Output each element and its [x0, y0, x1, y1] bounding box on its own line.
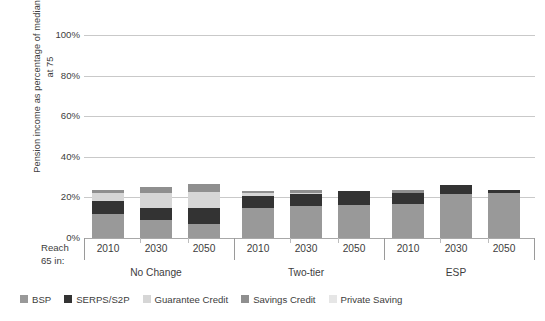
bar-two-tier-2030[interactable] [290, 190, 322, 238]
x-axis-caption-line1: Reach [41, 242, 87, 255]
group-separator [384, 238, 385, 260]
x-tick-mark [290, 238, 291, 243]
bar-segment-serps-s2p [440, 185, 472, 194]
x-tick-label: 2030 [430, 243, 482, 254]
x-axis: 201020302050201020302050201020302050No C… [84, 238, 535, 284]
bar-no-change-2050[interactable] [188, 184, 220, 238]
x-tick-label: 2010 [232, 243, 284, 254]
legend-item[interactable]: Private Saving [329, 294, 403, 305]
bar-two-tier-2010[interactable] [242, 191, 274, 238]
x-axis-caption-line2: 65 in: [41, 255, 87, 268]
bar-segment-bsp [242, 208, 274, 238]
x-tick-label: 2010 [382, 243, 434, 254]
x-tick-label: 2030 [130, 243, 182, 254]
bar-segment-bsp [188, 224, 220, 238]
bar-segment-serps-s2p [92, 201, 124, 213]
bar-segment-bsp [392, 204, 424, 239]
bar-segment-serps-s2p [140, 208, 172, 220]
gridline [84, 35, 535, 36]
bar-esp-2050[interactable] [488, 190, 520, 238]
x-tick-label: 2050 [178, 243, 230, 254]
gridline [84, 76, 535, 77]
x-tick-mark [338, 238, 339, 243]
legend-label: Private Saving [341, 294, 403, 305]
bar-segment-guarantee-credit [92, 193, 124, 201]
bar-segment-serps-s2p [338, 191, 370, 204]
x-tick-mark [488, 238, 489, 243]
bar-two-tier-2050[interactable] [338, 191, 370, 238]
x-group-label: ESP [386, 267, 526, 278]
bar-esp-2010[interactable] [392, 190, 424, 238]
x-tick-label: 2010 [82, 243, 134, 254]
bar-segment-serps-s2p [290, 194, 322, 205]
bar-segment-serps-s2p [188, 208, 220, 224]
legend-label: Guarantee Credit [155, 294, 229, 305]
bar-segment-bsp [290, 206, 322, 238]
group-separator [234, 238, 235, 260]
legend-item[interactable]: SERPS/S2P [64, 294, 129, 305]
legend-item[interactable]: Guarantee Credit [143, 294, 229, 305]
legend-swatch-icon [64, 295, 72, 303]
legend-label: Savings Credit [253, 294, 315, 305]
y-tick-label: 40% [38, 151, 80, 162]
x-group-label: Two-tier [236, 267, 376, 278]
bar-segment-bsp [92, 214, 124, 238]
plot-area [84, 35, 535, 238]
x-tick-label: 2050 [328, 243, 380, 254]
x-axis-caption: Reach 65 in: [41, 242, 87, 267]
y-axis-tick-labels: 0%20%40%60%80%100% [30, 35, 80, 240]
x-tick-mark [440, 238, 441, 243]
legend-item[interactable]: Savings Credit [241, 294, 315, 305]
legend-swatch-icon [241, 295, 249, 303]
legend-item[interactable]: BSP [20, 294, 51, 305]
y-tick-label: 80% [38, 70, 80, 81]
legend-label: BSP [32, 294, 51, 305]
legend-swatch-icon [20, 295, 28, 303]
chart-legend: BSPSERPS/S2PGuarantee CreditSavings Cred… [20, 291, 530, 307]
x-tick-label: 2050 [478, 243, 530, 254]
bar-segment-savings-credit [188, 184, 220, 192]
bar-segment-serps-s2p [242, 196, 274, 207]
x-tick-mark [140, 238, 141, 243]
gridline [84, 116, 535, 117]
bar-segment-guarantee-credit [188, 192, 220, 207]
bar-segment-bsp [140, 220, 172, 238]
y-tick-label: 60% [38, 110, 80, 121]
bar-no-change-2010[interactable] [92, 190, 124, 238]
bar-segment-bsp [440, 194, 472, 238]
legend-label: SERPS/S2P [76, 294, 129, 305]
bar-segment-guarantee-credit [140, 193, 172, 207]
bar-esp-2030[interactable] [440, 185, 472, 238]
x-tick-mark [188, 238, 189, 243]
gridline [84, 157, 535, 158]
bar-segment-bsp [488, 193, 520, 238]
bar-segment-bsp [338, 205, 370, 238]
x-group-label: No Change [86, 267, 226, 278]
pension-income-stacked-bar-chart: Pension income as percentage of median e… [0, 0, 545, 321]
legend-swatch-icon [329, 295, 337, 303]
group-separator [534, 238, 535, 260]
bar-no-change-2030[interactable] [140, 187, 172, 238]
x-tick-label: 2030 [280, 243, 332, 254]
y-tick-label: 20% [38, 191, 80, 202]
bar-segment-serps-s2p [392, 193, 424, 203]
y-tick-label: 100% [38, 29, 80, 40]
legend-swatch-icon [143, 295, 151, 303]
